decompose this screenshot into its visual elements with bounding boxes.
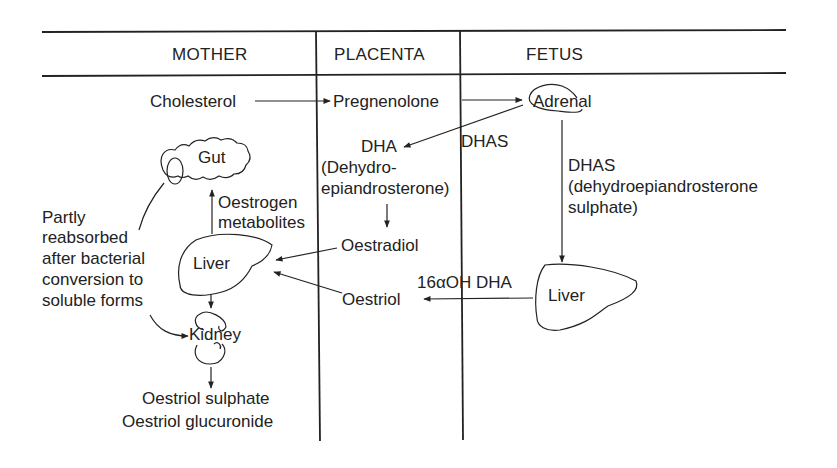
label-partly-3: after bacterial [42, 249, 145, 269]
label-oestrogen-2: metabolites [218, 213, 305, 233]
column-header-mother: MOTHER [172, 45, 247, 65]
arc-gut-reabsorbed [139, 183, 164, 230]
label-partly-1: Partly [42, 208, 85, 228]
label-oestriol-sulphate: Oestriol sulphate [142, 389, 270, 409]
table-header-rule [42, 73, 786, 76]
label-oestradiol: Oestradiol [341, 236, 418, 256]
label-pregnenolone: Pregnenolone [333, 92, 439, 112]
column-header-fetus: FETUS [526, 45, 583, 65]
arc-soluble-kidney [150, 315, 188, 336]
column-divider-right [460, 30, 463, 440]
label-dhas-placenta: DHAS [461, 132, 508, 152]
label-mother-liver: Liver [193, 254, 230, 274]
label-dhas-full-2: sulphate) [568, 198, 638, 218]
label-oestriol: Oestriol [342, 290, 401, 310]
label-adrenal: Adrenal [533, 92, 592, 112]
label-dhas-fetus: DHAS [568, 156, 615, 176]
label-gut: Gut [198, 148, 225, 168]
label-oestriol-glucuronide: Oestriol glucuronide [122, 412, 273, 432]
label-partly-4: conversion to [42, 270, 143, 290]
gut-opening [167, 158, 183, 184]
label-oestrogen-1: Oestrogen [218, 193, 297, 213]
label-dha: DHA [361, 137, 397, 157]
label-cholesterol: Cholesterol [150, 92, 236, 112]
label-dhas-full-1: (dehydroepiandrosterone [568, 177, 758, 197]
label-dha-full-2: epiandrosterone) [321, 179, 450, 199]
arrow-oestriol-liver [274, 272, 342, 293]
label-kidney: Kidney [189, 325, 241, 345]
label-partly-2: reabsorbed [42, 228, 128, 248]
label-16a-oh-dha: 16αOH DHA [417, 273, 512, 293]
label-partly-5: soluble forms [42, 291, 143, 311]
arrow-oestradiol-liver [276, 248, 337, 260]
label-dha-full-1: (Dehydro- [321, 158, 397, 178]
arrow-fetal-liver-oestriol [424, 298, 533, 299]
kidney-lower-shape [195, 343, 224, 364]
table-top-rule [42, 30, 786, 32]
column-divider-left [316, 31, 320, 441]
column-header-placenta: PLACENTA [334, 45, 425, 65]
label-fetal-liver: Liver [548, 286, 585, 306]
